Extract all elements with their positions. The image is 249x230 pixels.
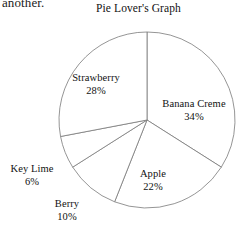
pie-chart-figure: another. Pie Lover's Graph Strawberry 28… bbox=[0, 0, 249, 230]
pie-label-strawberry: Strawberry 28% bbox=[59, 72, 133, 97]
pie-label-berry-percent: 10% bbox=[44, 211, 90, 224]
pie-label-berry-name: Berry bbox=[55, 198, 79, 209]
pie-label-key-lime-percent: 6% bbox=[2, 176, 62, 189]
pie-label-banana-creme: Banana Creme 34% bbox=[150, 98, 238, 123]
pie-label-strawberry-name: Strawberry bbox=[72, 72, 120, 83]
pie-label-apple: Apple 22% bbox=[128, 168, 178, 193]
pie-label-banana-creme-name: Banana Creme bbox=[162, 98, 225, 109]
pie-label-apple-percent: 22% bbox=[128, 181, 178, 194]
pie-label-key-lime-name: Key Lime bbox=[10, 163, 53, 174]
pie-label-strawberry-percent: 28% bbox=[59, 85, 133, 98]
pie-label-banana-creme-percent: 34% bbox=[150, 111, 238, 124]
pie-label-berry: Berry 10% bbox=[44, 198, 90, 223]
pie-label-apple-name: Apple bbox=[140, 168, 166, 179]
pie-label-key-lime: Key Lime 6% bbox=[2, 163, 62, 188]
